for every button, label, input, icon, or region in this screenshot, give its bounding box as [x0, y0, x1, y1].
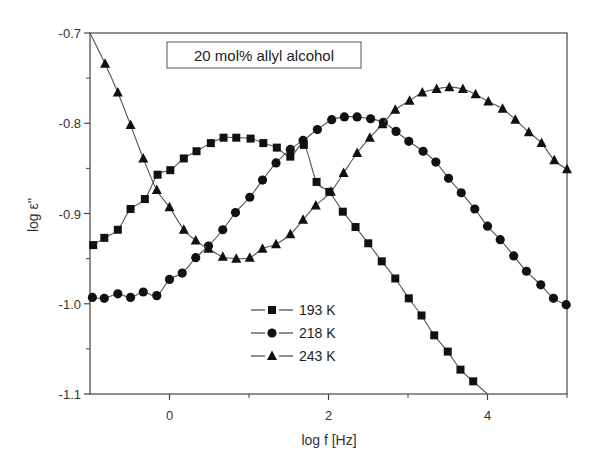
square-marker: [352, 223, 360, 231]
square-marker: [273, 144, 281, 152]
circle-marker: [549, 294, 558, 303]
circle-marker: [271, 158, 280, 167]
chart-title-box: 20 mol% allyl alcohol: [167, 42, 361, 68]
circle-marker: [267, 328, 276, 337]
chart-title: 20 mol% allyl alcohol: [194, 47, 334, 64]
triangle-marker: [113, 87, 123, 97]
square-marker: [418, 311, 426, 319]
circle-marker: [470, 204, 479, 213]
legend-item: 243 K: [251, 348, 336, 364]
legend-item: 218 K: [251, 325, 336, 341]
circle-marker: [366, 114, 375, 123]
square-marker: [405, 294, 413, 302]
triangle-marker: [271, 239, 281, 249]
circle-marker: [165, 275, 174, 284]
triangle-marker: [245, 252, 255, 262]
triangle-marker: [405, 95, 415, 105]
y-axis-title: log ε'': [25, 198, 41, 232]
square-marker: [456, 366, 464, 374]
circle-marker: [126, 293, 135, 302]
square-marker: [166, 166, 174, 174]
circle-marker: [313, 125, 322, 134]
triangle-marker: [152, 185, 162, 195]
circle-marker: [152, 291, 161, 300]
triangle-marker: [258, 243, 268, 253]
triangle-marker: [218, 251, 228, 261]
circle-marker: [522, 267, 531, 276]
circle-marker: [88, 293, 97, 302]
y-tick-label: -0.7: [59, 26, 81, 41]
circle-marker: [562, 300, 571, 309]
square-marker: [154, 171, 162, 179]
triangle-marker: [390, 104, 400, 114]
circle-marker: [139, 287, 148, 296]
x-tick-label: 0: [166, 408, 173, 423]
legend-item: 193 K: [251, 302, 336, 318]
circle-marker: [419, 147, 428, 156]
triangle-marker: [339, 167, 349, 177]
triangle-marker: [267, 351, 277, 361]
triangle-marker: [311, 200, 321, 210]
triangle-marker: [524, 127, 534, 136]
circle-marker: [536, 280, 545, 289]
square-marker: [430, 331, 438, 339]
triangle-marker: [100, 58, 110, 67]
series-line: [92, 117, 566, 305]
square-marker: [193, 147, 201, 155]
square-marker: [259, 139, 267, 147]
circle-marker: [178, 268, 187, 277]
square-marker: [444, 348, 452, 356]
square-marker: [232, 134, 240, 142]
circle-marker: [444, 174, 453, 183]
legend: 193 K218 K243 K: [251, 302, 336, 364]
x-axis-title: log f [Hz]: [301, 432, 356, 448]
triangle-marker: [471, 89, 481, 99]
y-tick-label: -1.0: [59, 297, 81, 312]
triangle-marker: [498, 103, 508, 113]
legend-label: 193 K: [299, 302, 336, 318]
triangle-marker: [138, 153, 148, 163]
circle-marker: [327, 115, 336, 124]
square-marker: [247, 135, 255, 143]
square-marker: [89, 241, 97, 249]
square-marker: [100, 234, 108, 242]
circle-marker: [496, 235, 505, 244]
legend-label: 218 K: [299, 325, 336, 341]
circle-marker: [353, 112, 362, 121]
circle-marker: [457, 188, 466, 197]
square-marker: [339, 208, 347, 216]
triangle-marker: [231, 253, 241, 263]
legend-label: 243 K: [299, 348, 336, 364]
square-marker: [114, 226, 122, 234]
chart: 024 -0.7-0.8-0.9-1.0-1.1 20 mol% allyl a…: [0, 0, 598, 475]
circle-marker: [245, 193, 254, 202]
square-marker: [268, 306, 276, 314]
y-tick-label: -1.1: [59, 387, 81, 402]
circle-marker: [231, 208, 240, 217]
square-marker: [127, 205, 135, 213]
circle-marker: [113, 289, 122, 298]
y-tick-label: -0.9: [59, 207, 81, 222]
square-marker: [313, 178, 321, 186]
series-218-k: [88, 112, 571, 309]
circle-marker: [391, 127, 400, 136]
circle-marker: [509, 251, 518, 260]
circle-marker: [286, 145, 295, 154]
circle-marker: [404, 137, 413, 146]
circle-marker: [431, 157, 440, 166]
circle-marker: [483, 222, 492, 231]
square-marker: [207, 139, 215, 147]
triangle-marker: [483, 96, 493, 106]
x-tick-label: 4: [484, 408, 491, 423]
square-marker: [378, 257, 386, 265]
circle-marker: [340, 112, 349, 121]
y-axis: -0.7-0.8-0.9-1.0-1.1: [59, 26, 90, 402]
circle-marker: [258, 176, 267, 185]
square-marker: [364, 239, 372, 247]
triangle-marker: [562, 164, 572, 174]
circle-marker: [100, 294, 109, 303]
y-tick-label: -0.8: [59, 116, 81, 131]
x-axis: 024: [166, 394, 567, 423]
square-marker: [469, 377, 477, 385]
triangle-marker: [510, 114, 520, 124]
